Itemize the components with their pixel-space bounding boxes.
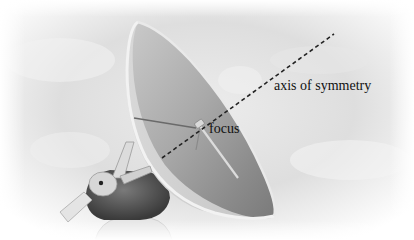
dish-illustration [0, 0, 414, 240]
edge-fade-y [0, 0, 414, 240]
focus-label: focus [209, 122, 239, 136]
axis-of-symmetry-label: axis of symmetry [274, 79, 371, 93]
satellite-dish-photo: axis of symmetry focus [0, 0, 414, 240]
